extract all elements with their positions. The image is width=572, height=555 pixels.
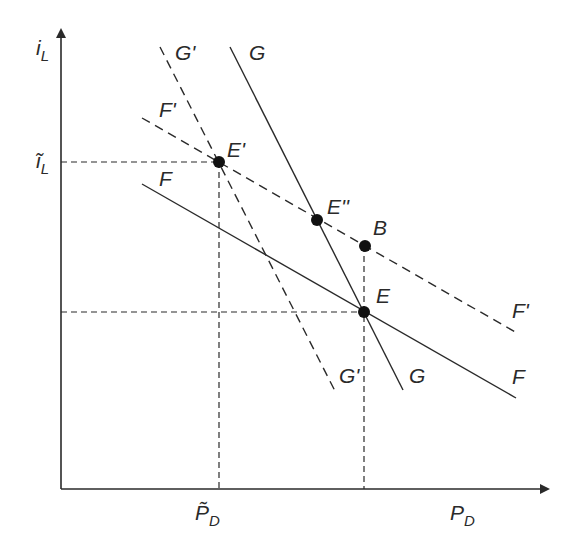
label-g-prime-bottom: G' — [339, 364, 360, 387]
label-f-prime-top: F' — [159, 98, 177, 121]
economics-diagram: iL PD ĩL P̃D G' G F' F G' G F' F E' E'' … — [0, 0, 572, 555]
label-g-prime-top: G' — [175, 41, 196, 64]
curve-g-prime — [160, 47, 336, 393]
label-b: B — [373, 216, 387, 239]
x-tick-label-p-tilde: P̃D — [195, 501, 220, 529]
point-e — [358, 306, 370, 318]
label-f-bottom: F — [512, 365, 526, 388]
y-axis-label: iL — [36, 36, 49, 64]
label-f-prime-bottom: F' — [512, 299, 530, 322]
label-g-bottom: G — [409, 364, 425, 387]
label-g-top: G — [249, 41, 265, 64]
x-axis-label: PD — [450, 501, 475, 529]
point-b — [359, 240, 371, 252]
label-e: E — [376, 284, 391, 307]
label-f-top: F — [159, 167, 173, 190]
label-e-double-prime: E'' — [327, 195, 350, 218]
y-tick-label-i-tilde: ĩL — [35, 149, 49, 177]
point-e-double-prime — [311, 214, 323, 226]
label-e-prime: E' — [227, 138, 246, 161]
point-e-prime — [213, 156, 225, 168]
curve-f-prime — [142, 118, 517, 333]
